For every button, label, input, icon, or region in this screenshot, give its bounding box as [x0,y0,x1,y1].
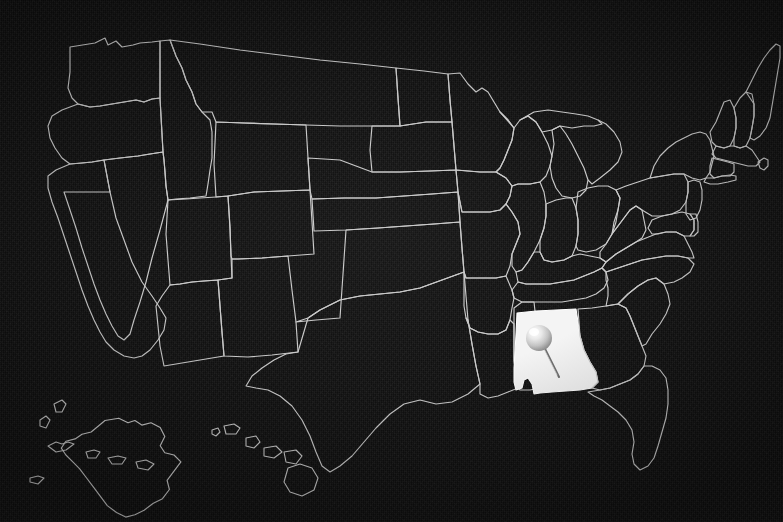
alaska-island-d [30,476,44,484]
state-kentucky[interactable] [516,252,606,284]
state-tennessee[interactable] [512,268,608,302]
state-alaska[interactable] [61,418,181,517]
state-wisconsin[interactable] [496,112,552,186]
state-idaho[interactable] [160,40,212,200]
state-illinois[interactable] [506,182,546,272]
state-nevada[interactable] [64,152,168,340]
hawaii-oahu [246,436,260,448]
state-arizona[interactable] [156,280,224,366]
state-colorado[interactable] [228,190,314,259]
alaska-island-e [54,400,66,412]
state-indiana[interactable] [540,198,578,262]
state-oregon[interactable] [48,98,163,164]
state-connecticut[interactable] [710,158,734,178]
state-kansas[interactable] [312,192,460,231]
state-alabama-highlighted[interactable] [514,309,598,394]
state-ohio[interactable] [576,186,620,252]
state-south-dakota[interactable] [370,122,456,172]
state-utah[interactable] [166,196,232,285]
state-louisiana[interactable] [466,318,518,398]
state-north-carolina[interactable] [606,256,694,306]
alaska-island-b [108,456,126,464]
alaska-aleutian-chain [48,442,74,452]
great-lakes-shoreline [588,120,622,184]
state-texas[interactable] [246,272,480,472]
state-washington[interactable] [68,38,160,107]
alaska-island-c [136,460,154,470]
state-massachusetts[interactable] [712,146,760,166]
hawaii-maui [284,450,302,464]
state-missouri[interactable] [458,192,520,278]
state-south-carolina[interactable] [618,278,670,346]
map-canvas: Dark textured map of the United States s… [0,0,783,522]
state-new-mexico[interactable] [218,256,298,357]
state-oklahoma[interactable] [296,222,464,322]
state-florida[interactable] [588,366,668,470]
state-delaware[interactable] [690,214,698,236]
us-states-map[interactable] [0,0,783,522]
state-new-york[interactable] [650,132,714,180]
state-wyoming[interactable] [214,122,310,197]
state-vermont[interactable] [710,100,736,148]
alaska-island-f [40,416,50,428]
state-north-dakota[interactable] [396,68,452,126]
hawaii-big-island [284,464,318,496]
alaska-island-a [86,450,100,458]
hawaii-kauai [224,424,240,434]
state-west-virginia[interactable] [600,206,646,262]
state-michigan-upper-peninsula[interactable] [520,110,602,132]
state-montana[interactable] [170,40,400,126]
state-virginia[interactable] [602,232,694,272]
cape-cod-outline [758,158,768,170]
state-arkansas[interactable] [464,272,514,334]
hawaii-molokai-maui [264,446,282,458]
state-minnesota[interactable] [448,73,514,172]
hawaii-niihau [212,428,220,436]
state-maine[interactable] [746,44,780,140]
state-california[interactable] [48,160,166,358]
state-michigan[interactable] [550,126,588,198]
state-nebraska[interactable] [308,158,458,199]
